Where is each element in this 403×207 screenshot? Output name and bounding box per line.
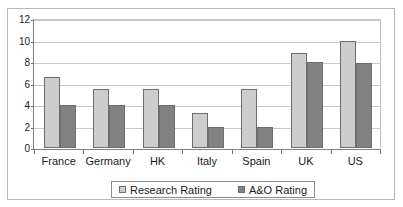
x-axis-tick-mark <box>182 150 183 154</box>
bar-research-rating <box>340 41 356 149</box>
x-axis-tick-mark <box>133 150 134 154</box>
bar-ao-rating <box>356 63 372 148</box>
y-axis-tick-label: 8 <box>8 58 30 68</box>
bar-research-rating <box>291 53 307 148</box>
legend-item-label: Research Rating <box>130 184 212 196</box>
y-axis-tick-label: 4 <box>8 101 30 111</box>
bar-group <box>134 21 183 148</box>
bar-group <box>84 21 133 148</box>
x-axis-tick-mark <box>380 150 381 154</box>
legend-item: Research Rating <box>119 184 212 196</box>
y-axis-tick-label: 10 <box>8 37 30 47</box>
legend-swatch-icon <box>119 186 126 193</box>
bar-ao-rating <box>159 105 175 148</box>
bar-research-rating <box>93 89 109 148</box>
x-axis-tick-mark <box>281 150 282 154</box>
legend-item-label: A&O Rating <box>249 184 307 196</box>
bar-ao-rating <box>109 105 125 148</box>
chart-legend: Research RatingA&O Rating <box>111 181 315 198</box>
x-axis: FranceGermanyHKItalySpainUKUS <box>33 150 381 172</box>
bar-ao-rating <box>307 62 323 148</box>
bar-research-rating <box>192 113 208 148</box>
x-axis-tick-label: US <box>331 155 380 168</box>
x-axis-tick-label: Germany <box>83 155 132 168</box>
x-axis-tick-label: Italy <box>182 155 231 168</box>
bar-research-rating <box>44 77 60 148</box>
x-axis-tick-label: Spain <box>232 155 281 168</box>
plot-area <box>33 19 381 150</box>
y-axis-tick-label: 0 <box>8 144 30 154</box>
chart-frame: 024681012 FranceGermanyHKItalySpainUKUS … <box>7 8 395 200</box>
x-axis-tick-mark <box>331 150 332 154</box>
x-axis-tick-mark <box>34 150 35 154</box>
x-axis-tick-mark <box>232 150 233 154</box>
x-axis-tick-label: HK <box>133 155 182 168</box>
y-axis-tick-label: 12 <box>8 15 30 25</box>
y-axis-tick-label: 6 <box>8 80 30 90</box>
bar-ao-rating <box>257 127 273 149</box>
x-axis-tick-label: France <box>34 155 83 168</box>
bar-ao-rating <box>60 105 76 148</box>
x-axis-tick-mark <box>83 150 84 154</box>
bar-group <box>332 21 381 148</box>
legend-item: A&O Rating <box>238 184 307 196</box>
bar-group <box>282 21 331 148</box>
bar-group <box>233 21 282 148</box>
bar-research-rating <box>143 89 159 148</box>
bar-group <box>35 21 84 148</box>
bars-layer <box>35 21 379 148</box>
x-axis-tick-label: UK <box>281 155 330 168</box>
bar-research-rating <box>241 89 257 148</box>
plot-wrapper: 024681012 <box>33 19 381 150</box>
bar-ao-rating <box>208 127 224 149</box>
bar-group <box>183 21 232 148</box>
y-axis: 024681012 <box>6 19 30 150</box>
legend-swatch-icon <box>238 186 245 193</box>
y-axis-tick-label: 2 <box>8 123 30 133</box>
